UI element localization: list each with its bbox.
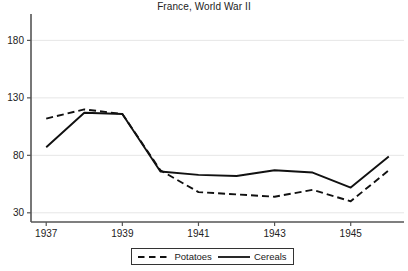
y-tick-label: 180: [7, 35, 24, 46]
y-tick-label: 130: [7, 92, 24, 103]
series-line-cereals: [46, 113, 389, 188]
legend-label-cereals: Cereals: [254, 252, 287, 262]
x-tick-label: 1945: [340, 228, 363, 239]
y-tick-label: 30: [13, 207, 25, 218]
x-tick-label: 1939: [111, 228, 134, 239]
legend-item-cereals: Cereals: [218, 252, 287, 262]
chart-plot-area: 3080130180 19371939194119431945: [0, 0, 408, 271]
legend-label-potatoes: Potatoes: [174, 252, 212, 262]
x-tick-label: 1941: [187, 228, 210, 239]
x-tick-label: 1937: [35, 228, 58, 239]
chart-container: France, World War II 3080130180 19371939…: [0, 0, 408, 271]
x-axis: [31, 222, 404, 226]
y-tick-label: 80: [13, 150, 25, 161]
chart-legend: Potatoes Cereals: [131, 248, 294, 265]
legend-item-potatoes: Potatoes: [138, 252, 212, 262]
x-tick-labels: 19371939194119431945: [35, 228, 362, 239]
legend-swatch-solid-icon: [218, 253, 250, 261]
legend-swatch-dashed-icon: [138, 253, 170, 261]
y-tick-labels: 3080130180: [7, 35, 24, 218]
y-axis: [27, 14, 31, 222]
x-tick-label: 1943: [263, 228, 286, 239]
